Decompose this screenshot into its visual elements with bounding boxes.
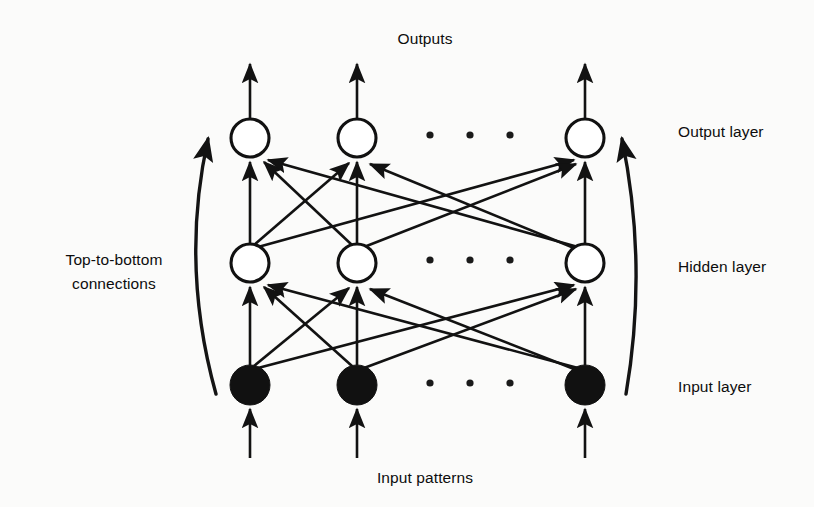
right-curve-path — [622, 139, 636, 394]
ellipsis-dot — [466, 379, 473, 386]
input-layer-label: Input layer — [678, 378, 751, 395]
left-curve-path — [196, 139, 216, 394]
hidden-node[interactable] — [338, 244, 376, 282]
input-node[interactable] — [565, 365, 605, 405]
input-pattern-arrows — [250, 409, 585, 458]
connection-edge — [258, 160, 574, 247]
input-patterns-caption: Input patterns — [377, 469, 473, 486]
left-top-to-bottom-arrow — [196, 139, 216, 394]
connection-edge — [254, 163, 349, 245]
hidden-to-output-connections — [250, 160, 585, 248]
hidden-layer-nodes — [231, 244, 604, 282]
output-node[interactable] — [338, 119, 376, 157]
ellipsis-dot — [506, 256, 513, 263]
output-node[interactable] — [231, 119, 269, 157]
ellipsis-dot — [466, 131, 473, 138]
top-to-bottom-label-line2: connections — [72, 275, 156, 292]
input-node[interactable] — [337, 365, 377, 405]
hidden-layer-label: Hidden layer — [678, 258, 766, 275]
hidden-node[interactable] — [566, 244, 604, 282]
right-bottom-to-top-arrow — [622, 139, 636, 394]
hidden-node[interactable] — [231, 244, 269, 282]
ellipsis-dot — [426, 256, 433, 263]
connection-edge — [268, 160, 578, 247]
output-layer-nodes — [231, 119, 604, 157]
connection-edge — [254, 288, 349, 366]
ellipsis-dot — [506, 379, 513, 386]
input-to-hidden-connections — [250, 285, 585, 369]
output-node[interactable] — [566, 119, 604, 157]
ellipsis-dot — [426, 131, 433, 138]
outputs-title: Outputs — [398, 30, 453, 47]
ellipsis-dot — [426, 379, 433, 386]
input-layer-nodes — [230, 365, 605, 405]
top-to-bottom-label-line1: Top-to-bottom — [66, 251, 163, 268]
neural-network-diagram: Outputs Input patterns Output layer Hidd… — [0, 0, 814, 507]
ellipsis-dot — [466, 256, 473, 263]
ellipsis-dot — [506, 131, 513, 138]
output-layer-label: Output layer — [678, 123, 764, 140]
diagram-canvas: Outputs Input patterns Output layer Hidd… — [0, 0, 814, 507]
input-node[interactable] — [230, 365, 270, 405]
output-arrows — [250, 64, 585, 119]
